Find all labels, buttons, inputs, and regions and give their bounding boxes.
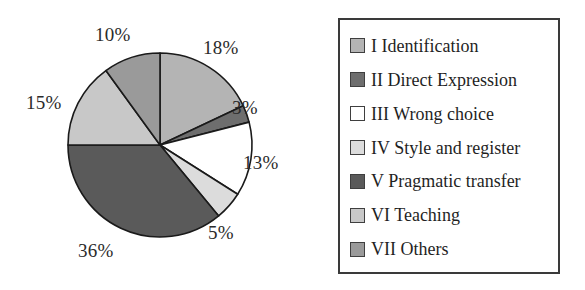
pie-percent-label: 10% bbox=[95, 24, 130, 46]
pie-percent-label: 15% bbox=[26, 92, 61, 114]
legend-color-swatch bbox=[350, 242, 365, 257]
legend: I IdentificationII Direct ExpressionIII … bbox=[338, 18, 560, 274]
legend-item-label: VII Others bbox=[371, 240, 448, 258]
legend-list: I IdentificationII Direct ExpressionIII … bbox=[350, 29, 550, 266]
pie-percent-label: 5% bbox=[208, 222, 234, 244]
pie-percent-label: 3% bbox=[232, 97, 258, 119]
legend-color-swatch bbox=[350, 208, 365, 223]
legend-item-label: VI Teaching bbox=[371, 206, 460, 224]
pie-percent-label: 36% bbox=[78, 240, 113, 262]
pie-percent-label: 18% bbox=[203, 37, 238, 59]
legend-color-swatch bbox=[350, 106, 365, 121]
legend-item-label: IV Style and register bbox=[371, 139, 520, 157]
legend-color-swatch bbox=[350, 72, 365, 87]
pie-slice-group bbox=[68, 53, 252, 237]
legend-item[interactable]: III Wrong choice bbox=[350, 97, 550, 131]
legend-item[interactable]: VII Others bbox=[350, 232, 550, 266]
legend-item[interactable]: VI Teaching bbox=[350, 198, 550, 232]
pie-svg bbox=[0, 0, 320, 290]
legend-item-label: III Wrong choice bbox=[371, 105, 494, 123]
legend-item-label: II Direct Expression bbox=[371, 71, 517, 89]
legend-item[interactable]: II Direct Expression bbox=[350, 63, 550, 97]
legend-color-swatch bbox=[350, 38, 365, 53]
pie-chart-figure: 18%3%13%5%36%15%10% I IdentificationII D… bbox=[0, 0, 585, 290]
pie-percent-label: 13% bbox=[243, 152, 278, 174]
legend-item-label: I Identification bbox=[371, 37, 478, 55]
pie-plot-area: 18%3%13%5%36%15%10% bbox=[0, 0, 320, 290]
legend-color-swatch bbox=[350, 140, 365, 155]
legend-item-label: V Pragmatic transfer bbox=[371, 172, 521, 190]
legend-item[interactable]: I Identification bbox=[350, 29, 550, 63]
legend-item[interactable]: V Pragmatic transfer bbox=[350, 164, 550, 198]
legend-color-swatch bbox=[350, 174, 365, 189]
legend-item[interactable]: IV Style and register bbox=[350, 131, 550, 165]
